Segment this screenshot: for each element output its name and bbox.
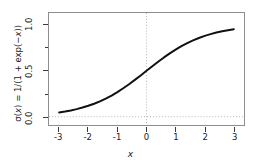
y-tick-label-1: 1.0 [25,13,39,35]
x-tick-label-3: 3 [224,133,246,142]
x-tick-label-0: 0 [136,133,158,142]
y-axis-title-rest: ) = 1/(1 + exp(− [13,37,23,108]
y-axis-title: σ(x) = 1/(1 + exp(−x)) [14,3,23,143]
sigmoid-curve [59,29,234,112]
x-tick-label--1: -1 [106,133,128,142]
y-axis-title-sigma: σ( [13,113,23,122]
x-tick-label--2: -2 [77,133,99,142]
x-axis-title: x [0,150,261,159]
plot-frame [48,12,245,126]
sigmoid-chart-figure: σ(x) = 1/(1 + exp(−x)) 1.0 0.5 0.0 -3 -2… [0,0,261,165]
x-tick-label-2: 2 [194,133,216,142]
x-tick-label-1: 1 [165,133,187,142]
y-axis-title-x1: x [13,108,23,113]
y-axis-title-x2: x [13,32,23,37]
y-axis-title-end: )) [13,25,23,32]
y-tick-label-0-5: 0.5 [25,60,39,82]
x-tick-label--3: -3 [47,133,69,142]
y-tick-label-0: 0.0 [25,107,39,129]
plot-canvas [49,13,244,125]
